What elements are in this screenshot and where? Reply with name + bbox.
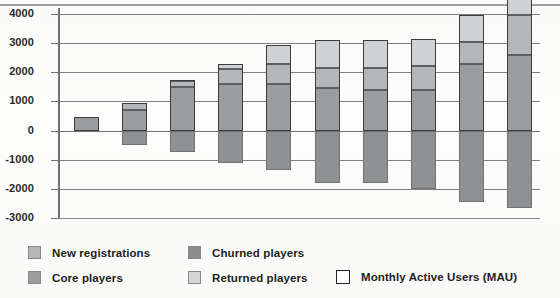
bar-segment-returned-players — [218, 64, 243, 70]
bar-segment-churned-players — [363, 131, 388, 183]
y-axis-tick-label: 3000 — [0, 36, 34, 48]
y-axis-tick-label: 2000 — [0, 65, 34, 77]
y-tick-2000 — [51, 72, 58, 73]
bar-segment-returned-players — [315, 40, 340, 68]
bar-segment-new-registrations — [315, 68, 340, 88]
bar-segment-new-registrations — [411, 66, 436, 89]
y-axis-tick-label: 1000 — [0, 94, 34, 106]
bar-segment-core-players — [411, 90, 436, 131]
bar-segment-returned-players — [170, 80, 195, 82]
bar-segment-new-registrations — [363, 68, 388, 90]
bar-segment-returned-players — [266, 45, 291, 64]
y-axis-tick-label: -2000 — [0, 182, 34, 194]
bar-group — [363, 14, 388, 218]
bar-segment-returned-players — [363, 40, 388, 68]
y-axis-tick-label: 4000 — [0, 7, 34, 19]
bar-segment-core-players — [74, 117, 99, 130]
bar-segment-core-players — [459, 64, 484, 131]
bar-group — [315, 14, 340, 218]
bar-segment-core-players — [218, 84, 243, 131]
bar-segment-returned-players — [507, 0, 532, 15]
bar-segment-core-players — [315, 88, 340, 130]
legend-label: New registrations — [52, 247, 150, 259]
legend-item[interactable]: New registrations — [28, 246, 150, 259]
bar-group — [266, 14, 291, 218]
legend-swatch-mau — [336, 270, 350, 284]
y-tick-0 — [51, 131, 58, 132]
legend-label: Monthly Active Users (MAU) — [361, 271, 517, 283]
legend-item[interactable]: Core players — [28, 271, 123, 284]
bar-segment-core-players — [170, 87, 195, 131]
bar-group — [218, 14, 243, 218]
legend-swatch-core — [28, 271, 41, 284]
gridline--3000 — [58, 218, 540, 219]
bar-group — [122, 14, 147, 218]
y-tick-1000 — [51, 101, 58, 102]
plot-area: 40003000200010000-1000-2000-3000 — [58, 14, 540, 218]
bar-segment-core-players — [363, 90, 388, 131]
bar-segment-core-players — [507, 55, 532, 131]
legend-label: Core players — [52, 272, 123, 284]
y-axis-tick-label: -3000 — [0, 211, 34, 223]
legend-item[interactable]: Monthly Active Users (MAU) — [336, 270, 517, 284]
legend-swatch-returned — [188, 271, 201, 284]
bar-segment-churned-players — [315, 131, 340, 183]
bar-segment-new-registrations — [266, 64, 291, 84]
bar-group — [170, 14, 195, 218]
bar-segment-returned-players — [411, 39, 436, 67]
bar-segment-churned-players — [170, 131, 195, 153]
y-tick--2000 — [51, 189, 58, 190]
legend-label: Churned players — [212, 247, 304, 259]
bar-group — [411, 14, 436, 218]
bar-segment-new-registrations — [507, 15, 532, 54]
chart-page: 40003000200010000-1000-2000-3000 New reg… — [0, 0, 560, 298]
bar-segment-new-registrations — [218, 69, 243, 84]
bar-segment-returned-players — [459, 15, 484, 41]
y-tick--3000 — [51, 218, 58, 219]
y-tick--1000 — [51, 160, 58, 161]
bar-segment-churned-players — [507, 131, 532, 208]
bar-segment-core-players — [122, 110, 147, 130]
chart-legend: New registrationsChurned playersCore pla… — [0, 244, 560, 298]
bar-segment-churned-players — [218, 131, 243, 163]
bar-segment-churned-players — [459, 131, 484, 202]
y-tick-4000 — [51, 14, 58, 15]
top-border-rule — [0, 4, 560, 6]
bar-segment-new-registrations — [170, 81, 195, 87]
legend-item[interactable]: Churned players — [188, 246, 304, 259]
y-axis-line — [58, 8, 60, 218]
bar-segment-churned-players — [411, 131, 436, 189]
bar-segment-churned-players — [266, 131, 291, 170]
y-tick-3000 — [51, 43, 58, 44]
bar-group — [507, 14, 532, 218]
bar-segment-new-registrations — [459, 42, 484, 64]
y-axis-tick-label: 0 — [0, 124, 34, 136]
bar-segment-core-players — [266, 84, 291, 131]
legend-label: Returned players — [212, 272, 308, 284]
bar-segment-new-registrations — [122, 103, 147, 110]
bar-group — [459, 14, 484, 218]
legend-item[interactable]: Returned players — [188, 271, 308, 284]
y-axis-tick-label: -1000 — [0, 153, 34, 165]
legend-swatch-newreg — [28, 246, 41, 259]
bar-segment-churned-players — [122, 131, 147, 146]
bar-group — [74, 14, 99, 218]
legend-swatch-churn — [188, 246, 201, 259]
